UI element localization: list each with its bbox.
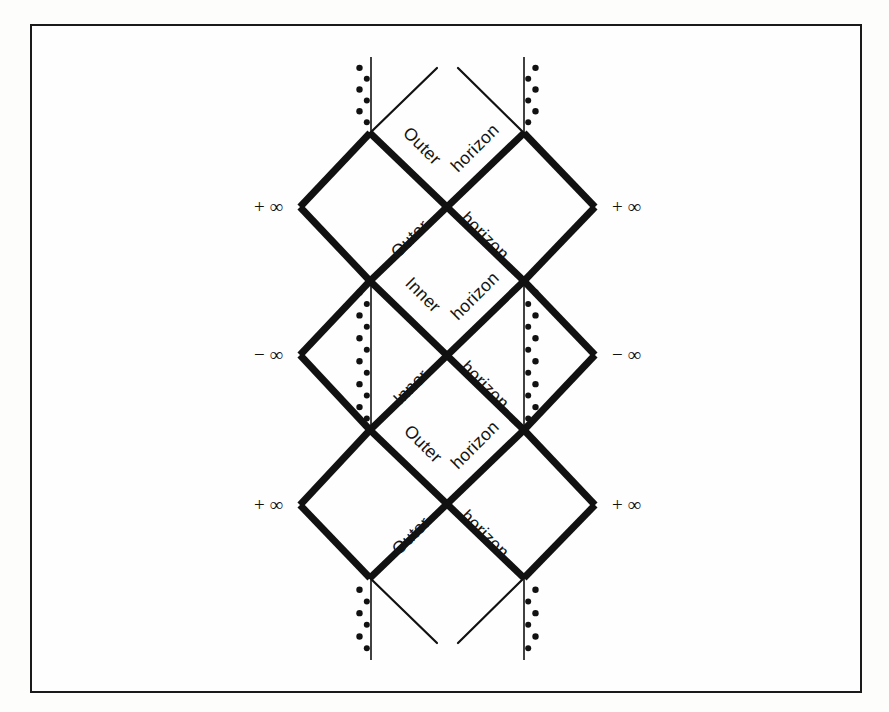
null-ray-bottom-left bbox=[370, 578, 437, 643]
singularity-dot bbox=[525, 76, 531, 82]
singularity-dot bbox=[364, 393, 370, 399]
singularity-dot bbox=[525, 393, 531, 399]
outer-horizon-top-left: Outer bbox=[399, 123, 445, 169]
inner-horizon-lower-right: horizon bbox=[457, 357, 513, 413]
singularity-dot bbox=[364, 645, 370, 651]
edge-mid-block-sw bbox=[300, 355, 370, 430]
singularity-dot bbox=[525, 301, 531, 307]
singularity-dot bbox=[364, 370, 370, 376]
singularity-dot bbox=[356, 65, 362, 71]
singularity-dot bbox=[364, 622, 370, 628]
singularity-dot bbox=[356, 86, 362, 92]
singularity-dot bbox=[525, 622, 531, 628]
edge-mid-block-se bbox=[524, 355, 595, 430]
edge-upper-block-sw bbox=[300, 207, 370, 281]
edge-lower-block-nw bbox=[300, 430, 370, 505]
singularity-dot bbox=[356, 335, 362, 341]
singularity-middle-right bbox=[524, 281, 539, 430]
singularity-dot bbox=[356, 610, 362, 616]
edge-upper-block-se bbox=[524, 207, 595, 281]
singularity-dot bbox=[364, 76, 370, 82]
singularity-bottom-left bbox=[356, 578, 371, 660]
singularity-dot bbox=[525, 370, 531, 376]
singularity-dot bbox=[532, 312, 538, 318]
edge-upper-block-nw bbox=[300, 133, 370, 207]
infinity-left-lower: + ∞ bbox=[254, 494, 283, 515]
infinity-right-middle: − ∞ bbox=[612, 344, 641, 365]
singularity-top-right bbox=[524, 57, 539, 133]
singularity-dot bbox=[525, 347, 531, 353]
singularity-top-left bbox=[356, 57, 371, 133]
singularity-dot bbox=[525, 598, 531, 604]
singularity-dot bbox=[356, 381, 362, 387]
singularity-dot bbox=[532, 358, 538, 364]
singularity-dot bbox=[532, 65, 538, 71]
singularity-dot bbox=[356, 108, 362, 114]
singularity-dot bbox=[364, 347, 370, 353]
singularity-dot bbox=[364, 97, 370, 103]
singularity-dot bbox=[364, 301, 370, 307]
outer-horizon-lower-left: Outer bbox=[400, 421, 446, 467]
edge-lower-block-ne bbox=[524, 430, 595, 505]
outer-horizon-upper-right: horizon bbox=[457, 208, 513, 264]
edge-upper-block-ne bbox=[524, 133, 595, 207]
singularity-dot bbox=[356, 404, 362, 410]
inner-horizon-upper-right: horizon bbox=[447, 268, 503, 324]
singularity-middle-left bbox=[356, 281, 371, 430]
edge-lower-block-se bbox=[524, 505, 595, 578]
conformal-boundary-group bbox=[300, 133, 595, 578]
outer-horizon-bottom-right: horizon bbox=[457, 506, 513, 562]
penrose-conformal-diagram: OuterhorizonOuterhorizonInnerhorizonInne… bbox=[0, 0, 889, 712]
outer-horizon-lower-right: horizon bbox=[447, 417, 503, 473]
singularity-bottom-right bbox=[524, 578, 539, 660]
horizon-labels-group: OuterhorizonOuterhorizonInnerhorizonInne… bbox=[387, 120, 514, 562]
singularity-dot bbox=[532, 633, 538, 639]
singularity-dot bbox=[356, 358, 362, 364]
singularity-dot bbox=[525, 119, 531, 125]
singularity-dot bbox=[532, 404, 538, 410]
infinity-right-upper: + ∞ bbox=[612, 196, 641, 217]
singularity-dot bbox=[525, 97, 531, 103]
singularity-dot bbox=[364, 324, 370, 330]
singularity-dot bbox=[532, 86, 538, 92]
singularity-dot bbox=[356, 312, 362, 318]
singularity-dot bbox=[356, 587, 362, 593]
edge-lower-block-sw bbox=[300, 505, 370, 578]
null-ray-bottom-right bbox=[458, 578, 524, 643]
singularity-dot bbox=[525, 324, 531, 330]
null-ray-top-left bbox=[370, 68, 437, 133]
singularity-dot bbox=[532, 335, 538, 341]
singularity-dot bbox=[364, 119, 370, 125]
figure-root: OuterhorizonOuterhorizonInnerhorizonInne… bbox=[0, 0, 889, 712]
infinity-right-lower: + ∞ bbox=[612, 494, 641, 515]
outer-horizon-top-right: horizon bbox=[447, 120, 503, 176]
singularity-dot bbox=[532, 381, 538, 387]
infinity-left-upper: + ∞ bbox=[254, 196, 283, 217]
singularity-dot bbox=[532, 587, 538, 593]
singularity-dot bbox=[364, 598, 370, 604]
singularity-dot bbox=[525, 645, 531, 651]
infinity-left-middle: − ∞ bbox=[254, 344, 283, 365]
singularity-dot bbox=[356, 633, 362, 639]
singularity-dot bbox=[532, 108, 538, 114]
singularity-dot bbox=[532, 610, 538, 616]
inner-horizon-upper-left: Inner bbox=[402, 273, 445, 316]
